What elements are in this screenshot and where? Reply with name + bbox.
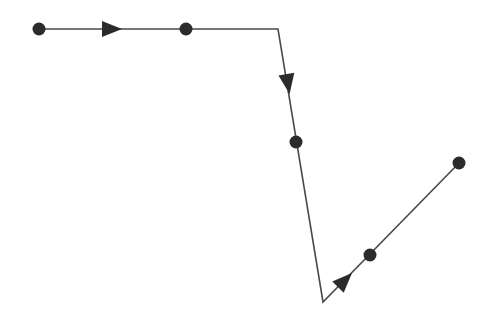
directed-path-diagram [0, 0, 491, 323]
node-dot [33, 23, 46, 36]
node-dot [180, 23, 193, 36]
arrowhead-icon [279, 73, 295, 94]
arrowhead-icon [102, 21, 122, 37]
path-line [39, 29, 459, 302]
node-dot [364, 249, 377, 262]
diagram-canvas [0, 0, 491, 323]
node-dot [290, 136, 303, 149]
node-dot [453, 157, 466, 170]
nodes-group [33, 23, 466, 262]
